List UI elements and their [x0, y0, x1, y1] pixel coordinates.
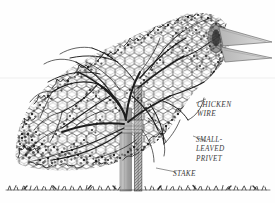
label-small-leaved-privet: SMALL- LEAVED PRIVET — [196, 136, 225, 164]
label-stake: STAKE — [173, 169, 196, 178]
topiary-bird-illustration — [0, 0, 275, 203]
label-chicken-wire: CHICKEN WIRE — [197, 100, 231, 118]
illustration-canvas: CHICKEN WIRE SMALL- LEAVED PRIVET STAKE — [0, 0, 275, 203]
stake-tie — [117, 120, 143, 133]
beak — [219, 27, 272, 62]
